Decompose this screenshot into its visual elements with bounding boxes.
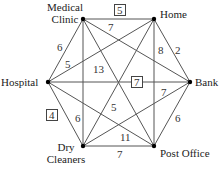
weight-medical-clinic-dry-cleaners: 6 [75, 113, 81, 124]
weight-home-bank: 2 [175, 45, 181, 56]
weight-medical-clinic-post-office: 13 [93, 64, 104, 75]
weight-hospital-bank: 7 [131, 76, 143, 88]
label-post-office: Post Office [160, 148, 210, 159]
label-clinic: Clinic [40, 13, 90, 25]
label-bank: Bank [195, 77, 218, 88]
edge-bank-post-office [154, 82, 190, 146]
weight-bank-dry-cleaners: 7 [161, 87, 167, 98]
label-cleaners: Cleaners [44, 153, 88, 165]
node-home [152, 17, 156, 21]
node-hospital [46, 80, 50, 84]
weight-dry-cleaners-post-office: 7 [117, 149, 123, 160]
edge-hospital-post-office [48, 82, 154, 146]
weight-medical-clinic-hospital: 6 [57, 42, 63, 53]
label-dry: Dry [44, 141, 88, 153]
weight-bank-post-office: 6 [175, 113, 181, 124]
weight-home-hospital: 5 [65, 59, 71, 70]
weight-hospital-post-office: 11 [120, 132, 131, 143]
label-home: Home [160, 9, 187, 20]
edge-bank-dry-cleaners [83, 82, 190, 146]
label-dry-cleaners: Dry Cleaners [44, 141, 88, 165]
weight-home-post-office: 8 [158, 45, 164, 56]
weight-medical-clinic-home: 5 [114, 4, 126, 16]
weight-hospital-dry-cleaners: 4 [46, 109, 58, 121]
node-bank [188, 80, 192, 84]
label-medical-clinic: Medical Clinic [40, 1, 90, 25]
edge-medical-clinic-hospital [48, 19, 83, 82]
label-medical: Medical [40, 1, 90, 13]
weight-medical-clinic-bank: 7 [108, 22, 114, 33]
node-post-office [152, 144, 156, 148]
label-hospital: Hospital [1, 77, 38, 88]
weight-home-dry-cleaners: 5 [111, 102, 117, 113]
